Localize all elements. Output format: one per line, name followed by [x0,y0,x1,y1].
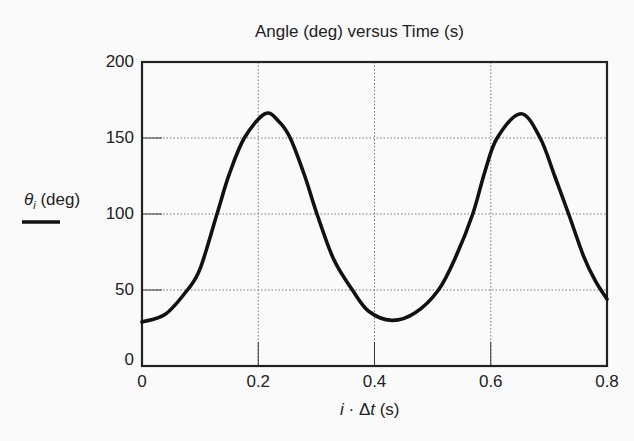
y-tick-label: 50 [115,280,134,300]
x-tick-label: 0.6 [479,372,503,392]
grid-lines [142,62,607,366]
y-tick-label: 100 [106,204,134,224]
x-tick-label: 0 [137,372,146,392]
x-tick-label: 0.2 [246,372,270,392]
legend-label: θi (deg) [24,190,80,211]
x-tick-label: 0.4 [363,372,387,392]
y-tick-label: 200 [106,52,134,72]
plot-area [0,0,634,441]
y-tick-label: 0 [125,350,134,370]
x-axis-title: i · Δt (s) [340,400,400,420]
y-tick-label: 150 [106,128,134,148]
x-tick-label: 0.8 [595,372,619,392]
